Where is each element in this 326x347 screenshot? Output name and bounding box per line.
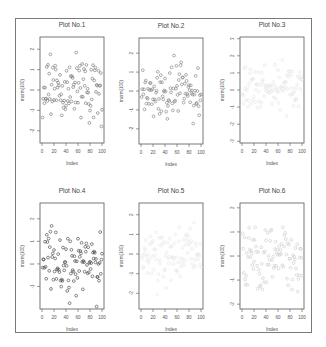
data-point [183,264,186,267]
data-point [65,264,68,267]
data-point [254,101,257,104]
data-point [174,233,177,236]
data-point [245,252,248,255]
data-point [54,231,57,234]
data-point [184,243,187,246]
data-point [89,109,92,112]
data-point [101,252,104,255]
data-point [91,275,94,278]
data-point [189,84,192,87]
data-point [194,74,197,77]
data-point [53,270,56,273]
data-point [179,275,182,278]
data-point [94,261,97,264]
x-tick-label: 40 [263,315,269,320]
data-point [52,278,55,281]
data-point [89,104,92,107]
data-point [172,262,175,265]
data-point [273,85,276,88]
data-point [195,244,198,247]
data-point [272,81,275,84]
data-point [262,83,265,86]
data-point [141,257,144,260]
data-point [193,258,196,261]
data-point [197,105,200,108]
data-point [65,69,68,72]
x-tick-label: 20 [251,315,257,320]
data-point [300,256,303,259]
y-tick-label: -1 [129,107,134,111]
y-axis-label: rnorm(100) [220,78,225,101]
x-tick-label: 60 [275,315,281,320]
data-point [182,101,185,104]
data-point [177,110,180,113]
data-point [67,87,70,90]
data-point [140,96,143,99]
data-point [183,259,186,262]
x-axis-label: Index [66,160,79,166]
data-point [100,125,103,128]
data-point [51,252,54,255]
data-point [295,87,298,90]
x-tick-label: 20 [251,149,257,154]
data-point [99,272,102,275]
y-axis-label: rnorm(100) [119,244,124,267]
data-point [143,108,146,111]
data-point [263,95,266,98]
data-point [175,256,178,259]
data-point [66,290,69,293]
data-point [68,302,71,305]
data-point [263,64,266,67]
x-tick-label: 60 [275,149,281,154]
data-point [191,263,194,266]
data-point [186,252,189,255]
data-point [57,81,60,84]
x-tick-label: 40 [162,150,168,155]
data-point [144,239,147,242]
x-tick-label: 100 [98,149,106,154]
data-point [189,227,192,230]
data-point [69,240,72,243]
data-point [54,64,57,67]
y-tick-label: -1 [129,271,134,275]
data-point [260,101,263,104]
data-point [293,258,296,261]
data-point [60,285,63,288]
data-point [178,73,181,76]
data-point [177,79,180,82]
data-point [251,264,254,267]
data-point [285,115,288,118]
y-axis-label: rnorm(100) [220,244,225,267]
data-point [101,108,104,111]
y-tick-label: -1 [230,105,235,109]
data-point [90,243,93,246]
x-tick-label: 40 [263,149,269,154]
data-point [165,287,168,290]
data-point [48,269,51,272]
data-point [149,235,152,238]
data-point [48,246,51,249]
x-tick-label: 0 [140,150,143,155]
x-tick-label: 100 [298,149,306,154]
data-point [171,109,174,112]
data-point [197,258,200,261]
data-point [200,266,203,269]
data-point [243,236,246,239]
data-point [258,100,261,103]
data-point [158,113,161,116]
y-tick-label: -2 [129,126,134,130]
data-point [165,110,168,113]
data-point [250,103,253,106]
data-point [185,73,188,76]
data-point [142,93,145,96]
data-point [278,244,281,247]
data-point [161,81,164,84]
data-point [284,86,287,89]
data-point [257,268,260,271]
x-tick-label: 0 [140,315,143,320]
data-point [294,247,297,250]
data-point [98,92,101,95]
data-point [180,265,183,268]
data-point [253,95,256,98]
data-point [50,113,53,116]
